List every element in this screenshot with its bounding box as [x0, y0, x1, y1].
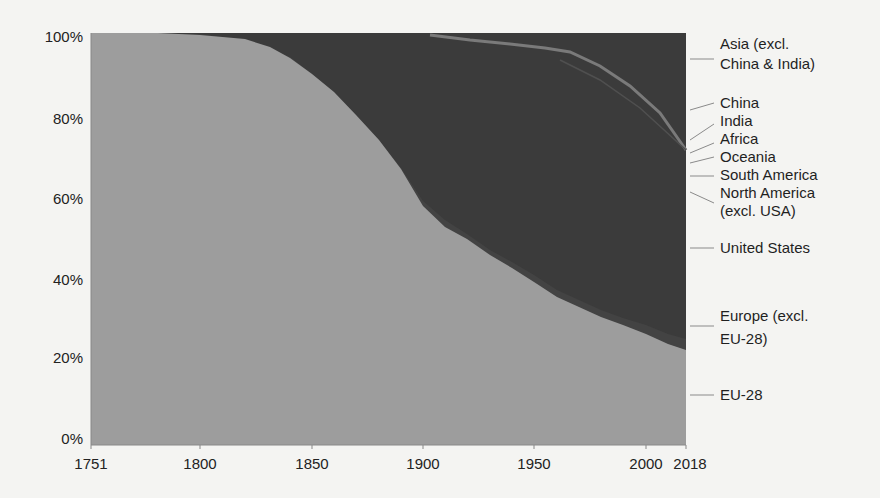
legend-north-america-line2: (excl. USA): [720, 202, 796, 219]
x-tick-1751: 1751: [74, 455, 107, 472]
legend-leader-lines: [690, 59, 714, 395]
legend-asia-line1: Asia (excl.: [720, 35, 789, 52]
legend-asia-line2: China & India): [720, 55, 815, 72]
legend-europe-line1: Europe (excl.: [720, 307, 808, 324]
y-tick-80: 80%: [53, 110, 83, 127]
x-tick-1800: 1800: [183, 455, 216, 472]
legend-india: India: [720, 112, 753, 129]
legend-europe-line2: EU-28): [720, 330, 768, 347]
legend-north-america-line1: North America: [720, 184, 816, 201]
legend: Asia (excl. China & India) China India A…: [720, 35, 818, 403]
legend-china: China: [720, 94, 760, 111]
y-tick-40: 40%: [53, 271, 83, 288]
legend-south-america: South America: [720, 166, 818, 183]
y-axis-labels: 0% 20% 40% 60% 80% 100%: [45, 28, 83, 447]
legend-oceania: Oceania: [720, 148, 777, 165]
stacked-area-chart: 0% 20% 40% 60% 80% 100% 1751 1800 1850 1…: [0, 0, 880, 498]
x-tick-2000: 2000: [629, 455, 662, 472]
x-tick-1900: 1900: [406, 455, 439, 472]
x-tick-2018: 2018: [673, 455, 706, 472]
y-tick-20: 20%: [53, 349, 83, 366]
y-tick-60: 60%: [53, 190, 83, 207]
x-tick-marks: [91, 445, 686, 449]
legend-africa: Africa: [720, 130, 759, 147]
legend-eu28: EU-28: [720, 386, 763, 403]
x-tick-1950: 1950: [517, 455, 550, 472]
y-tick-100: 100%: [45, 28, 83, 45]
y-tick-0: 0%: [61, 430, 83, 447]
x-axis-labels: 1751 1800 1850 1900 1950 2000 2018: [74, 455, 706, 472]
x-tick-1850: 1850: [295, 455, 328, 472]
legend-united-states: United States: [720, 239, 810, 256]
